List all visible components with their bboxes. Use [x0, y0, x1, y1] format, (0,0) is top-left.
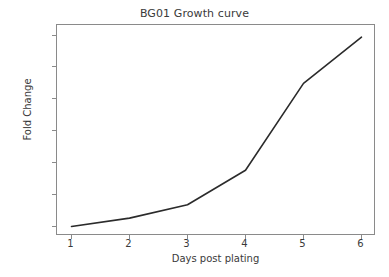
x-axis-label: Days post plating — [56, 253, 375, 264]
x-tick-label: 3 — [172, 238, 202, 249]
line-series-svg — [57, 25, 376, 236]
chart-title: BG01 Growth curve — [0, 7, 389, 20]
growth-curve-line — [72, 37, 362, 226]
x-tick-label: 2 — [114, 238, 144, 249]
x-tick-label: 6 — [346, 238, 376, 249]
y-axis-label: Fold Change — [22, 55, 33, 165]
x-tick-label: 5 — [288, 238, 318, 249]
chart-screenshot: BG01 Growth curve Fold Change 0100200300… — [0, 0, 389, 277]
plot-area — [56, 24, 375, 235]
x-tick-label: 4 — [230, 238, 260, 249]
x-tick-label: 1 — [56, 238, 86, 249]
